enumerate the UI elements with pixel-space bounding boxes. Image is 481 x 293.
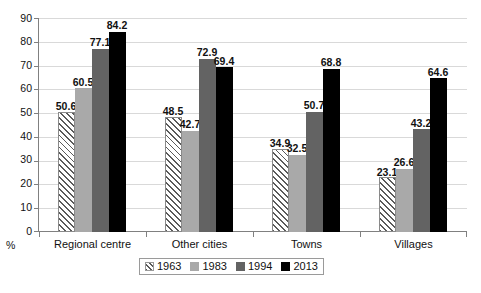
bar-wrap-1994: 77.1 xyxy=(92,18,109,232)
bar-other-cities-1994[interactable]: 72.9 xyxy=(199,59,216,232)
category-label-regional-centre: Regional centre xyxy=(39,238,146,250)
legend-item-2013[interactable]: 2013 xyxy=(281,261,317,272)
bar-wrap-2013: 68.8 xyxy=(323,18,340,232)
bar-value-label: 50.6 xyxy=(56,101,76,112)
bar-groups: 50.6 60.5 77.1 84.2 xyxy=(39,18,467,232)
x-tick-1 xyxy=(146,232,147,237)
legend-label-1994: 1994 xyxy=(248,261,272,272)
black-swatch-icon xyxy=(281,262,290,271)
bar-regional-centre-2013[interactable]: 84.2 xyxy=(109,32,126,232)
y-tick-90 xyxy=(34,18,38,19)
y-tick-label-30: 30 xyxy=(6,154,32,165)
y-tick-80 xyxy=(34,42,38,43)
bar-towns-1963[interactable]: 34.9 xyxy=(272,149,289,232)
bar-wrap-1983: 60.5 xyxy=(75,18,92,232)
x-tick-2 xyxy=(253,232,254,237)
bar-value-label: 26.6 xyxy=(394,157,414,168)
bar-group-towns: 34.9 32.5 50.7 68.8 xyxy=(253,18,360,232)
y-tick-label-0: 0 xyxy=(6,226,32,237)
bar-other-cities-1963[interactable]: 48.5 xyxy=(165,117,182,232)
bar-wrap-1963: 23.1 xyxy=(379,18,396,232)
dark-gray-swatch-icon xyxy=(236,262,245,271)
y-tick-label-50: 50 xyxy=(6,107,32,118)
bar-value-label: 32.5 xyxy=(287,143,307,154)
bar-value-label: 69.4 xyxy=(214,56,234,67)
category-label-other-cities: Other cities xyxy=(146,238,253,250)
bar-wrap-1963: 34.9 xyxy=(272,18,289,232)
bar-regional-centre-1983[interactable]: 60.5 xyxy=(75,88,92,232)
bar-towns-1983[interactable]: 32.5 xyxy=(289,155,306,232)
y-axis-unit-label: % xyxy=(6,239,15,251)
bar-wrap-2013: 84.2 xyxy=(109,18,126,232)
bar-value-label: 68.8 xyxy=(321,57,341,68)
bar-wrap-1994: 50.7 xyxy=(306,18,323,232)
y-tick-30 xyxy=(34,161,38,162)
bar-villages-1963[interactable]: 23.1 xyxy=(379,177,396,232)
bar-other-cities-1983[interactable]: 42.7 xyxy=(182,131,199,232)
y-tick-label-80: 80 xyxy=(6,36,32,47)
x-tick-start xyxy=(39,232,40,237)
bar-wrap-1963: 50.6 xyxy=(58,18,75,232)
y-axis-labels: 90 80 70 60 50 40 30 20 10 0 xyxy=(0,0,32,293)
bar-value-label: 50.7 xyxy=(304,100,324,111)
legend-item-1963[interactable]: 1963 xyxy=(145,261,181,272)
bar-group-villages: 23.1 26.6 43.2 64.6 xyxy=(360,18,467,232)
bar-wrap-2013: 69.4 xyxy=(216,18,233,232)
y-tick-label-20: 20 xyxy=(6,178,32,189)
bar-value-label: 64.6 xyxy=(428,67,448,78)
y-tick-60 xyxy=(34,89,38,90)
legend-item-1994[interactable]: 1994 xyxy=(236,261,272,272)
chart-legend: 1963 1983 1994 2013 xyxy=(139,258,324,275)
bar-value-label: 43.2 xyxy=(411,118,431,129)
bar-wrap-1994: 72.9 xyxy=(199,18,216,232)
bar-value-label: 48.5 xyxy=(163,106,183,117)
bar-value-label: 42.7 xyxy=(180,119,200,130)
x-axis-category-labels: Regional centre Other cities Towns Villa… xyxy=(39,238,467,250)
y-tick-label-40: 40 xyxy=(6,131,32,142)
y-tick-50 xyxy=(34,113,38,114)
y-tick-label-70: 70 xyxy=(6,60,32,71)
hatch-swatch-icon xyxy=(145,262,154,271)
bar-chart: 90 80 70 60 50 40 30 20 10 0 % xyxy=(0,0,481,293)
bar-villages-2013[interactable]: 64.6 xyxy=(430,78,447,232)
y-tick-label-10: 10 xyxy=(6,202,32,213)
legend-item-1983[interactable]: 1983 xyxy=(190,261,226,272)
y-tick-40 xyxy=(34,137,38,138)
y-tick-10 xyxy=(34,208,38,209)
legend-label-2013: 2013 xyxy=(293,261,317,272)
legend-label-1983: 1983 xyxy=(202,261,226,272)
light-gray-swatch-icon xyxy=(190,262,199,271)
bar-villages-1983[interactable]: 26.6 xyxy=(396,169,413,232)
legend-label-1963: 1963 xyxy=(157,261,181,272)
bar-towns-1994[interactable]: 50.7 xyxy=(306,112,323,232)
bar-regional-centre-1963[interactable]: 50.6 xyxy=(58,112,75,232)
bar-wrap-2013: 64.6 xyxy=(430,18,447,232)
bar-value-label: 77.1 xyxy=(90,37,110,48)
bar-regional-centre-1994[interactable]: 77.1 xyxy=(92,49,109,232)
bar-other-cities-2013[interactable]: 69.4 xyxy=(216,67,233,232)
y-tick-label-90: 90 xyxy=(6,13,32,24)
category-label-towns: Towns xyxy=(253,238,360,250)
y-tick-70 xyxy=(34,66,38,67)
bar-group-regional-centre: 50.6 60.5 77.1 84.2 xyxy=(39,18,146,232)
bar-villages-1994[interactable]: 43.2 xyxy=(413,129,430,232)
y-tick-label-60: 60 xyxy=(6,83,32,94)
x-tick-end xyxy=(466,232,467,237)
bar-towns-2013[interactable]: 68.8 xyxy=(323,69,340,232)
bar-wrap-1983: 32.5 xyxy=(289,18,306,232)
y-tick-0 xyxy=(34,231,38,232)
y-tick-20 xyxy=(34,184,38,185)
category-label-villages: Villages xyxy=(360,238,467,250)
bar-wrap-1994: 43.2 xyxy=(413,18,430,232)
bar-value-label: 84.2 xyxy=(107,20,127,31)
bar-group-other-cities: 48.5 42.7 72.9 69.4 xyxy=(146,18,253,232)
x-tick-3 xyxy=(360,232,361,237)
bar-value-label: 60.5 xyxy=(73,77,93,88)
